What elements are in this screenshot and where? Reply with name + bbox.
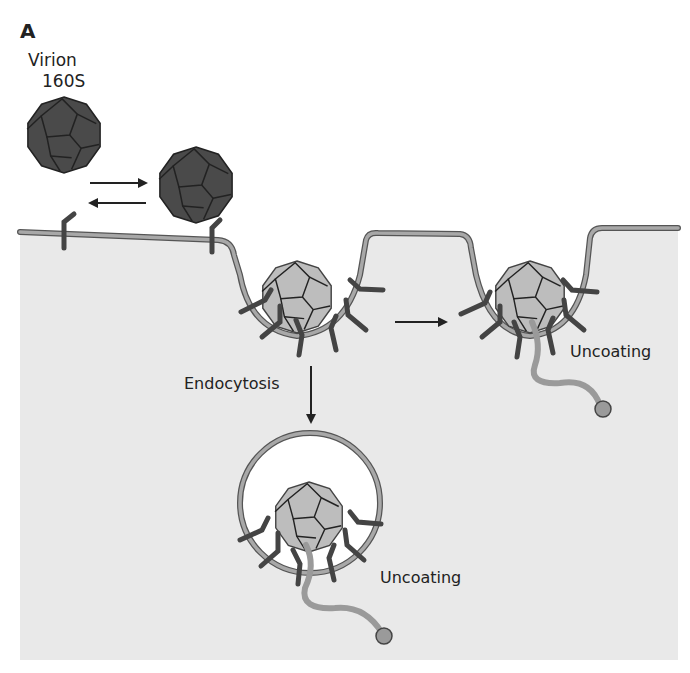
panel-label: A xyxy=(20,19,36,43)
endocytosis-label: Endocytosis xyxy=(184,374,280,393)
uncoating-label-pit: Uncoating xyxy=(570,342,651,361)
uncoating-label-vesicle: Uncoating xyxy=(380,568,461,587)
free-virion xyxy=(27,97,100,173)
vpg-protein-pit xyxy=(595,401,611,417)
virion-sedimentation-label: 160S xyxy=(42,71,85,91)
bound-virion xyxy=(159,147,232,223)
virion-label: Virion xyxy=(28,50,77,70)
vesicle-virion xyxy=(275,482,342,552)
virus-entry-diagram: A Virion 160S xyxy=(0,0,690,673)
vpg-protein-vesicle xyxy=(376,628,392,644)
